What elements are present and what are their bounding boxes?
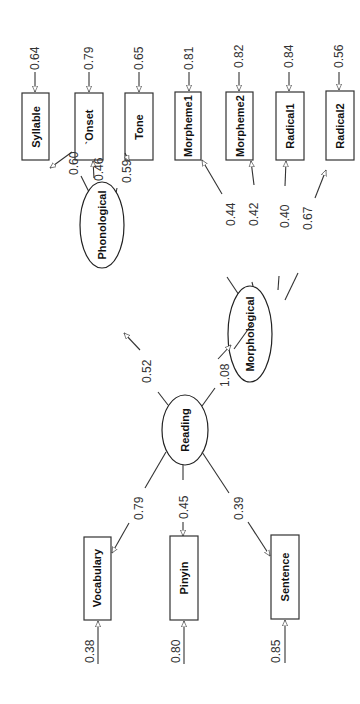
indicator-label: `Onset bbox=[83, 109, 95, 144]
indicator-syllable: Syllable 0.64 bbox=[22, 46, 49, 160]
loading-value: 0.45 bbox=[177, 495, 191, 519]
latent-label: Phonological bbox=[96, 190, 108, 259]
sem-diagram: Syllable 0.64 `Onset 0.79 Tone 0.65 Morp… bbox=[0, 0, 360, 704]
loading-line bbox=[202, 160, 222, 194]
path-line bbox=[158, 392, 168, 405]
path-coef: 1.08 bbox=[218, 363, 232, 387]
indicator-vocabulary: Vocabulary 0.38 bbox=[83, 537, 111, 664]
error-value: 0.85 bbox=[269, 639, 283, 663]
loading-value: 0.67 bbox=[301, 206, 315, 230]
loading-line bbox=[278, 276, 279, 290]
bottom-indicators: Vocabulary 0.38 Pinyin 0.80 Sentence 0.8… bbox=[83, 535, 299, 664]
path-line bbox=[124, 333, 140, 350]
loading-line bbox=[285, 273, 298, 300]
loading-line bbox=[285, 161, 286, 186]
loading-line bbox=[112, 523, 129, 553]
error-value: 0.64 bbox=[28, 46, 42, 70]
loading-value: 0.59 bbox=[120, 159, 134, 183]
loading-value: 0.79 bbox=[132, 496, 146, 520]
loading-line bbox=[315, 170, 326, 198]
indicator-label: Radical1 bbox=[284, 103, 296, 148]
loading-value: 0.39 bbox=[232, 496, 246, 520]
indicator-sentence: Sentence 0.85 bbox=[269, 535, 299, 663]
indicator-onset: `Onset 0.79 bbox=[75, 46, 103, 160]
indicator-radical2: Radical2 0.56 bbox=[326, 44, 354, 160]
indicator-label: Sentence bbox=[279, 553, 291, 602]
loading-value: 0.42 bbox=[247, 202, 261, 226]
loading-value: 0.60 bbox=[67, 151, 81, 175]
loading-line bbox=[251, 161, 254, 185]
error-value: 0.84 bbox=[282, 44, 296, 68]
indicator-label: Vocabulary bbox=[91, 548, 103, 607]
path-line bbox=[202, 388, 215, 406]
error-value: 0.56 bbox=[332, 44, 346, 68]
error-value: 0.79 bbox=[82, 46, 96, 70]
indicator-label: Radical2 bbox=[334, 103, 346, 148]
error-value: 0.38 bbox=[83, 639, 97, 663]
loading-line bbox=[248, 522, 270, 556]
indicator-label: Tone bbox=[133, 114, 145, 139]
indicator-label: Morpheme1 bbox=[182, 95, 194, 157]
latent-label: Reading bbox=[179, 408, 191, 451]
indicator-radical1: Radical1 0.84 bbox=[276, 44, 304, 160]
indicator-label: Syllable bbox=[30, 106, 42, 148]
indicator-tone: Tone 0.65 bbox=[125, 46, 153, 160]
latent-reading: Reading bbox=[162, 395, 208, 465]
error-value: 0.65 bbox=[132, 46, 146, 70]
loading-line bbox=[145, 452, 166, 488]
path-coef: 0.52 bbox=[140, 359, 154, 383]
indicator-morpheme2: Morpheme2 0.82 bbox=[226, 44, 253, 160]
loading-value: 0.46 bbox=[92, 157, 106, 181]
loading-line bbox=[202, 452, 229, 493]
morphological-loadings: 0.44 0.42 0.40 0.67 bbox=[202, 160, 326, 301]
latent-label: Morphological bbox=[244, 296, 256, 371]
indicator-morpheme1: Morpheme1 0.81 bbox=[175, 46, 201, 160]
latent-morphological: Morphological bbox=[228, 286, 272, 382]
indicator-label: Pinyin bbox=[178, 561, 190, 594]
error-value: 0.81 bbox=[182, 46, 196, 70]
error-value: 0.82 bbox=[232, 44, 246, 68]
latent-phonological: Phonological bbox=[80, 182, 124, 268]
loading-value: 0.40 bbox=[278, 204, 292, 228]
loading-value: 0.44 bbox=[224, 202, 238, 226]
top-indicators: Syllable 0.64 `Onset 0.79 Tone 0.65 Morp… bbox=[22, 44, 354, 160]
indicator-label: Morpheme2 bbox=[234, 95, 246, 157]
error-value: 0.80 bbox=[169, 639, 183, 663]
indicator-pinyin: Pinyin 0.80 bbox=[169, 536, 198, 664]
